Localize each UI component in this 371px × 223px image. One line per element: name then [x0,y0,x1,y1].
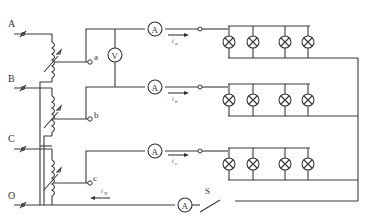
lamp-icon [302,148,314,180]
output-terminal-c [198,149,202,153]
ammeter-b: A [148,80,162,94]
autotransformer-a [44,34,90,82]
svg-text:a: a [175,41,178,46]
input-line-c [14,146,52,152]
svg-text:A: A [152,83,159,93]
svg-text:c: c [175,161,178,166]
lamp-icon [223,148,235,180]
lamp-bank-a [223,26,358,58]
input-line-b [14,85,52,91]
svg-text:N: N [103,191,108,196]
svg-text:a: a [94,52,98,62]
lamp-icon [279,148,291,180]
neutral-bus [40,82,52,205]
lamp-icon [223,84,235,116]
tap-c: c [88,173,97,185]
switch-s[interactable]: S [200,186,220,212]
lamp-icon [247,148,259,180]
autotransformer-b [44,88,90,136]
output-terminal-a [198,27,202,31]
input-line-o [14,202,175,208]
terminal-label-c: C [8,133,15,144]
slider-c [44,174,58,190]
terminal-label-b: B [8,73,15,84]
svg-text:i: i [101,188,103,194]
svg-text:c: c [93,173,97,183]
lamp-icon [302,26,314,58]
svg-text:b: b [175,99,178,104]
lamp-icon [279,84,291,116]
slider-a [44,56,58,72]
current-arrow-a: i a [168,33,189,46]
slider-b [44,112,58,128]
terminal-label-o: O [8,190,15,201]
arrow-icon [57,106,61,110]
lamp-bank-b [223,84,358,116]
svg-text:S: S [205,186,210,196]
circuit-diagram: A B C O [0,0,371,223]
tap-b: b [88,110,99,121]
svg-text:i: i [172,158,174,164]
input-line-a [14,31,52,37]
arrow-icon [57,168,61,172]
tap-a: a [88,52,98,64]
svg-text:A: A [182,201,189,211]
lamp-icon [302,84,314,116]
lamp-icon [223,26,235,58]
lamp-icon [247,84,259,116]
svg-text:i: i [172,38,174,44]
svg-text:i: i [172,96,174,102]
current-arrow-n: i N [90,188,110,200]
svg-text:A: A [152,25,159,35]
lamp-bank-c [223,148,358,180]
ammeter-c: A [148,144,162,158]
voltmeter: V [108,29,122,87]
lamp-icon [279,26,291,58]
svg-text:A: A [152,147,159,157]
current-arrow-b: i b [168,91,189,104]
autotransformer-c [44,149,90,205]
svg-text:b: b [94,110,99,120]
current-arrow-c: i c [168,153,189,166]
terminal-label-a: A [8,18,16,29]
output-terminal-b [198,85,202,89]
lamp-icon [247,26,259,58]
ammeter-a: A [148,22,162,36]
arrow-icon [57,50,61,54]
svg-text:V: V [112,51,119,61]
ammeter-neutral: A [178,198,192,212]
